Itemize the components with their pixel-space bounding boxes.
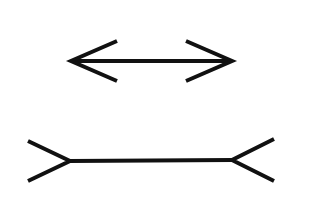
- left-fin-icon: [28, 141, 70, 181]
- illusion-svg: [0, 0, 324, 216]
- bottom-shaft-line: [70, 160, 232, 161]
- top-arrow-figure: [71, 41, 232, 81]
- right-fin-icon: [232, 139, 274, 181]
- bottom-fin-figure: [28, 139, 274, 181]
- muller-lyer-figure: Müller-Lyer illusion: [0, 0, 324, 216]
